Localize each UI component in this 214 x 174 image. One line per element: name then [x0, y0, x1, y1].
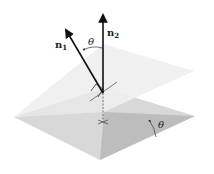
label-theta-normals: θ: [88, 36, 94, 47]
two-planes-diagram: n1 n2 θ θ: [0, 0, 214, 174]
label-theta-planes: θ: [158, 119, 164, 130]
label-n1: n1: [55, 39, 67, 52]
label-n2: n2: [107, 27, 119, 40]
